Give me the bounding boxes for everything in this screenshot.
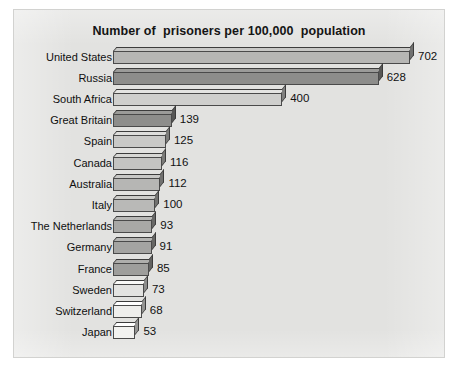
bar — [113, 284, 144, 297]
bar — [113, 93, 282, 106]
bar-top-face — [113, 110, 175, 114]
bar-side-face — [142, 296, 146, 314]
bar-top-face — [113, 47, 414, 51]
bar — [113, 157, 162, 170]
value-label: 85 — [157, 263, 170, 275]
bar-row: Australia112 — [14, 173, 444, 194]
category-label: Germany — [67, 242, 112, 253]
bar-row: Spain125 — [14, 131, 444, 152]
bar-top-face — [113, 131, 169, 135]
bar-top-face — [113, 89, 286, 93]
bar-row: The Netherlands93 — [14, 216, 444, 237]
value-label: 112 — [168, 178, 186, 190]
category-label: Spain — [84, 136, 112, 147]
bar — [113, 305, 142, 318]
bar-row: Great Britain139 — [14, 110, 444, 131]
plot-area: United States702Russia628South Africa400… — [14, 46, 444, 346]
category-label: France — [78, 263, 112, 274]
bar-top-face — [113, 174, 164, 178]
value-label: 100 — [163, 199, 182, 211]
bar-side-face — [166, 126, 170, 144]
bar-top-face — [113, 237, 155, 241]
bar-top-face — [113, 68, 382, 72]
bar-top-face — [113, 280, 147, 284]
bar-row: Sweden73 — [14, 279, 444, 300]
bar — [113, 114, 172, 127]
bar-side-face — [135, 317, 139, 335]
bar — [113, 178, 160, 191]
bar — [113, 326, 135, 339]
bar-row: Switzerland68 — [14, 300, 444, 321]
category-label: Great Britain — [50, 115, 112, 126]
chart-panel: Number of prisoners per 100,000 populati… — [14, 10, 444, 357]
category-label: United States — [46, 51, 112, 62]
bar-top-face — [113, 301, 145, 305]
value-label: 628 — [387, 72, 406, 84]
bar-row: Japan53 — [14, 322, 444, 343]
bar — [113, 199, 155, 212]
bar-row: France85 — [14, 258, 444, 279]
category-label: Italy — [92, 199, 112, 210]
bar — [113, 220, 152, 233]
bar — [113, 263, 149, 276]
bar-side-face — [144, 275, 148, 293]
bar-row: South Africa400 — [14, 88, 444, 109]
value-label: 116 — [170, 157, 188, 169]
value-label: 53 — [143, 326, 156, 338]
bar-side-face — [282, 84, 286, 102]
value-label: 139 — [180, 114, 199, 126]
bar-side-face — [152, 232, 156, 250]
value-label: 73 — [152, 284, 165, 296]
bar-side-face — [160, 169, 164, 187]
bar — [113, 72, 379, 85]
bar-top-face — [113, 153, 166, 157]
value-label: 91 — [160, 242, 173, 254]
bar — [113, 241, 152, 254]
category-label: Russia — [78, 72, 112, 83]
bar-top-face — [113, 216, 156, 220]
category-label: Switzerland — [55, 305, 112, 316]
chart-figure: Number of prisoners per 100,000 populati… — [0, 0, 459, 369]
value-label: 68 — [150, 305, 163, 317]
category-label: South Africa — [53, 93, 112, 104]
value-label: 93 — [160, 220, 173, 232]
category-label: The Netherlands — [31, 221, 112, 232]
bar-row: Germany91 — [14, 237, 444, 258]
category-label: Japan — [82, 327, 112, 338]
bar-row: United States702 — [14, 46, 444, 67]
bar — [113, 135, 166, 148]
value-label: 702 — [418, 51, 437, 63]
bar — [113, 51, 410, 64]
bar-side-face — [410, 41, 414, 59]
category-label: Australia — [69, 178, 112, 189]
category-label: Canada — [73, 157, 112, 168]
value-label: 400 — [290, 93, 309, 105]
bar-row: Canada116 — [14, 152, 444, 173]
bar-side-face — [152, 211, 156, 229]
bar-side-face — [155, 190, 159, 208]
bar-top-face — [113, 195, 159, 199]
bar-top-face — [113, 259, 153, 263]
bar-row: Russia628 — [14, 67, 444, 88]
chart-title: Number of prisoners per 100,000 populati… — [14, 24, 444, 38]
bar-side-face — [172, 105, 176, 123]
value-label: 125 — [174, 136, 193, 148]
category-label: Sweden — [72, 284, 112, 295]
bar-side-face — [149, 253, 153, 271]
bar-side-face — [162, 147, 166, 165]
bar-row: Italy100 — [14, 194, 444, 215]
